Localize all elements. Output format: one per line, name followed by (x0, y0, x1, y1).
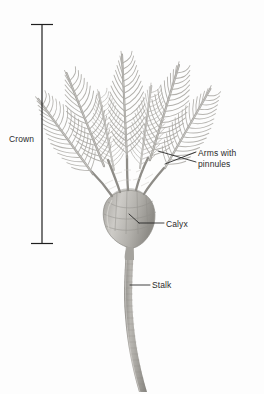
label-calyx: Calyx (166, 219, 188, 230)
label-crown: Crown (9, 134, 34, 145)
label-arms-with-pinnules: Arms with pinnules (198, 148, 236, 169)
label-stalk: Stalk (152, 280, 171, 291)
calyx-part (103, 188, 156, 260)
crinoid-illustration (0, 0, 264, 394)
label-arms-line1: Arms with (198, 148, 236, 158)
crown-extent-bracket (31, 24, 53, 244)
stalk-part (124, 244, 147, 392)
crinoid-anatomy-figure: Crown Arms with pinnules Calyx Stalk (0, 0, 264, 394)
label-arms-line2: pinnules (198, 159, 230, 169)
